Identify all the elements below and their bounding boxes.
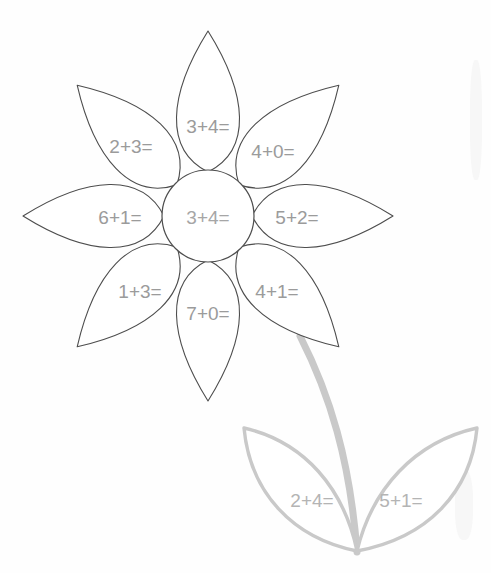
petal-left-shape	[23, 184, 164, 247]
petal-right-equation: 5+2=	[275, 208, 318, 227]
petal-bottom-shape	[176, 260, 239, 401]
petal-top-left-equation: 2+3=	[109, 137, 152, 156]
petal-top-shape	[176, 31, 239, 172]
petal-bottom-left-equation: 1+3=	[118, 282, 161, 301]
petal-left-equation: 6+1=	[98, 208, 141, 227]
petal-top-equation: 3+4=	[186, 117, 229, 136]
flower-drawing	[0, 0, 491, 573]
petal-bottom-equation: 7+0=	[186, 304, 229, 323]
flower-center-equation: 3+4=	[186, 208, 229, 227]
petal-bottom-right-equation: 4+1=	[255, 282, 298, 301]
leaf-left-equation: 2+4=	[290, 491, 333, 510]
leaf-right-equation: 5+1=	[379, 491, 422, 510]
worksheet-canvas: 3+4= 4+0= 5+2= 4+1= 7+0= 1+3= 6+1= 2+3= …	[0, 0, 491, 573]
petal-right-shape	[252, 184, 393, 247]
petal-top-right-equation: 4+0=	[251, 142, 294, 161]
